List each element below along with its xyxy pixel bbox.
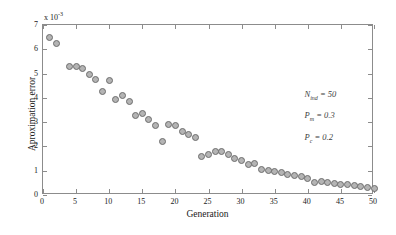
x-axis-tick-label: 45 (336, 197, 344, 206)
data-point-marker (126, 98, 133, 105)
data-point-marker (238, 157, 245, 164)
x-axis-tick-label: 50 (369, 197, 377, 206)
parameter-annotation: Nind = 50 (304, 89, 336, 101)
data-point-marker (66, 63, 73, 70)
data-point-marker (79, 65, 86, 72)
data-point-marker (46, 34, 53, 41)
data-point-marker (192, 134, 199, 141)
annotation-value: = 0.2 (312, 132, 333, 142)
data-point-marker (344, 181, 351, 188)
x-axis-tick-label: 0 (40, 197, 44, 206)
data-point-marker (311, 179, 318, 186)
annotation-value: = 0.3 (314, 110, 335, 120)
data-point-marker (159, 138, 166, 145)
y-axis-title: Aproximation error (27, 34, 37, 194)
x-axis-tick-label: 15 (137, 197, 145, 206)
y-axis-exponent-label: x 10-3 (44, 11, 63, 22)
x-axis-tick-label: 30 (237, 197, 245, 206)
y-axis-tick (368, 195, 372, 196)
data-point-marker (92, 76, 99, 83)
parameter-annotation: Pc = 0.2 (304, 132, 333, 144)
plot-area: Nind = 50Pm = 0.3Pc = 0.2 (42, 24, 373, 194)
x-axis-title: Generation (42, 209, 373, 219)
data-point-marker (145, 116, 152, 123)
annotation-value: = 50 (318, 89, 337, 99)
x-axis-tick-label: 40 (303, 197, 311, 206)
data-point-marker (205, 151, 212, 158)
data-point-marker (106, 77, 113, 84)
x-axis-tick-label: 25 (204, 197, 212, 206)
annotation-subscript: ind (310, 95, 318, 101)
data-point-marker (139, 110, 146, 117)
data-point-marker (119, 92, 126, 99)
data-point-marker (291, 172, 298, 179)
x-axis-tick (374, 25, 375, 29)
data-point-marker (172, 122, 179, 129)
parameter-annotation: Pm = 0.3 (304, 110, 334, 122)
data-point-marker (99, 88, 106, 95)
x-axis-tick-label: 20 (170, 197, 178, 206)
data-point-marker (152, 122, 159, 129)
y-axis-tick (43, 195, 47, 196)
data-point-marker (251, 160, 258, 167)
y-axis-exponent-power: -3 (58, 11, 63, 17)
data-point-marker (258, 166, 265, 173)
x-axis-tick-label: 5 (73, 197, 77, 206)
figure-container: x 10-3 Nind = 50Pm = 0.3Pc = 0.2 0510152… (0, 0, 396, 235)
y-axis-exponent-mantissa: x 10 (44, 13, 58, 22)
y-axis-tick-label: 7 (28, 20, 38, 29)
data-point-marker (53, 40, 60, 47)
data-point-marker (364, 184, 371, 191)
x-axis-tick-label: 10 (104, 197, 112, 206)
x-axis-tick-label: 35 (270, 197, 278, 206)
data-point-marker (371, 185, 378, 192)
data-marker-layer (43, 25, 372, 193)
